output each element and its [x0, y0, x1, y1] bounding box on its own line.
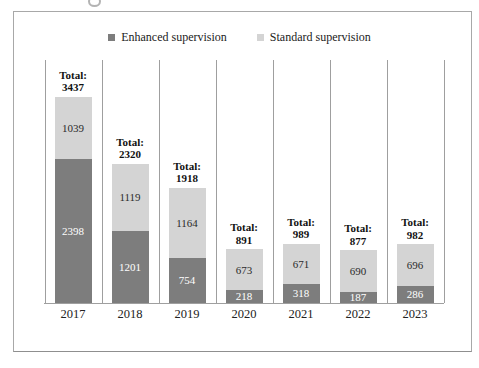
total-label-prefix: Total: — [100, 136, 160, 149]
total-label-2020: Total:891 — [214, 221, 274, 246]
total-label-prefix: Total: — [214, 221, 274, 234]
segment-value-standard-2018: 1119 — [119, 191, 140, 203]
segment-value-enhanced-2018: 1201 — [119, 261, 141, 273]
category-gridline — [387, 60, 388, 303]
chart-legend: Enhanced supervision Standard supervisio… — [0, 30, 479, 45]
x-axis-label-2023: 2023 — [403, 307, 428, 322]
legend-item-standard: Standard supervision — [257, 30, 371, 45]
total-label-prefix: Total: — [157, 160, 217, 173]
total-label-2023: Total:982 — [385, 216, 445, 241]
total-label-value: 3437 — [43, 81, 103, 94]
total-label-2022: Total:877 — [328, 222, 388, 247]
legend-label-standard: Standard supervision — [270, 30, 371, 45]
total-label-prefix: Total: — [385, 216, 445, 229]
legend-label-enhanced: Enhanced supervision — [121, 30, 227, 45]
total-label-prefix: Total: — [43, 69, 103, 82]
total-label-value: 891 — [214, 234, 274, 247]
enhanced-swatch-icon — [108, 34, 115, 41]
total-label-value: 1918 — [157, 172, 217, 185]
legend-item-enhanced: Enhanced supervision — [108, 30, 227, 45]
category-gridline — [273, 60, 274, 303]
segment-value-standard-2019: 1164 — [176, 217, 198, 229]
segment-value-standard-2017: 1039 — [62, 122, 84, 134]
segment-value-standard-2022: 690 — [350, 265, 367, 277]
total-label-value: 982 — [385, 229, 445, 242]
segment-value-enhanced-2021: 318 — [293, 287, 310, 299]
chart-page: Enhanced supervision Standard supervisio… — [0, 0, 479, 368]
category-gridline — [45, 60, 46, 303]
cropped-title-fragment — [88, 0, 101, 7]
total-label-prefix: Total: — [271, 216, 331, 229]
x-axis-label-2022: 2022 — [346, 307, 371, 322]
segment-value-enhanced-2023: 286 — [407, 288, 424, 300]
x-axis-line — [44, 303, 444, 304]
segment-value-enhanced-2019: 754 — [179, 274, 196, 286]
segment-value-enhanced-2017: 2398 — [62, 225, 84, 237]
total-label-value: 989 — [271, 228, 331, 241]
segment-value-standard-2023: 696 — [407, 259, 424, 271]
total-label-prefix: Total: — [328, 222, 388, 235]
segment-value-enhanced-2022: 187 — [350, 291, 367, 303]
x-axis-label-2021: 2021 — [289, 307, 314, 322]
segment-value-standard-2020: 673 — [236, 264, 253, 276]
x-axis-label-2019: 2019 — [175, 307, 200, 322]
total-label-2017: Total:3437 — [43, 69, 103, 94]
category-gridline — [102, 60, 103, 303]
category-gridline — [444, 60, 445, 303]
category-gridline — [330, 60, 331, 303]
standard-swatch-icon — [257, 34, 264, 41]
segment-value-enhanced-2020: 218 — [236, 290, 253, 302]
total-label-2019: Total:1918 — [157, 160, 217, 185]
total-label-2018: Total:2320 — [100, 136, 160, 161]
total-label-value: 877 — [328, 235, 388, 248]
x-axis-label-2018: 2018 — [118, 307, 143, 322]
x-axis-label-2017: 2017 — [61, 307, 86, 322]
total-label-2021: Total:989 — [271, 216, 331, 241]
total-label-value: 2320 — [100, 148, 160, 161]
segment-value-standard-2021: 671 — [293, 258, 310, 270]
x-axis-label-2020: 2020 — [232, 307, 257, 322]
